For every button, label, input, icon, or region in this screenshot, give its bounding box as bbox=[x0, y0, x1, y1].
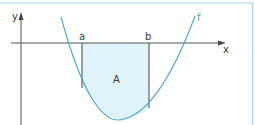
function-label: f bbox=[197, 12, 201, 23]
upper-bound-label: b bbox=[145, 31, 151, 42]
x-axis-label: x bbox=[223, 44, 229, 55]
y-axis-arrow-icon bbox=[19, 12, 24, 20]
lower-bound-label: a bbox=[79, 31, 85, 42]
y-axis-label: y bbox=[12, 11, 18, 22]
area-label: A bbox=[113, 74, 120, 85]
integral-diagram: y x f a b A bbox=[0, 0, 255, 125]
